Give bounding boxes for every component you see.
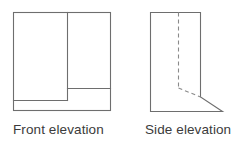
side-elevation-outline (151, 13, 223, 112)
diagram-page: Front elevation Side elevation (0, 0, 237, 143)
side-elevation-view (151, 13, 223, 112)
front-elevation-caption: Front elevation (13, 123, 104, 137)
front-elevation-view (14, 13, 111, 111)
front-elevation-outline (14, 13, 111, 111)
side-elevation-caption: Side elevation (145, 123, 231, 137)
